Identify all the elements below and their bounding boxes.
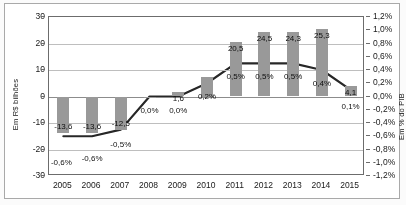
y-axis-left-tick: -30 bbox=[11, 170, 45, 180]
y-axis-right-tick: -1,0% bbox=[373, 157, 406, 167]
chart-image: 3020100-10-20-30 Em R$ bilhões 1,2%1,0%0… bbox=[0, 0, 406, 205]
y-axis-right-tickmark bbox=[366, 122, 370, 123]
y-axis-left-tick: 30 bbox=[11, 11, 45, 21]
y-axis-right-tickmark bbox=[366, 175, 370, 176]
bar-value-label-2015: 4,1 bbox=[334, 88, 368, 97]
y-axis-right-tickmark bbox=[366, 16, 370, 17]
y-axis-right-tickmark bbox=[366, 135, 370, 136]
y-axis-left-tickmark bbox=[41, 69, 45, 70]
y-axis-left-tickmark bbox=[41, 149, 45, 150]
chart-frame: 3020100-10-20-30 Em R$ bilhões 1,2%1,0%0… bbox=[4, 3, 400, 199]
x-axis: 2005200620072008200920102011201220132014… bbox=[48, 180, 364, 194]
bar-value-label-2014: 25,3 bbox=[305, 31, 339, 40]
y-axis-right-tick: -1,2% bbox=[373, 170, 406, 180]
y-axis-left-tickmark bbox=[41, 122, 45, 123]
line-value-label-2006: -0,6% bbox=[74, 154, 110, 163]
y-axis-right-tickmark bbox=[366, 149, 370, 150]
y-axis-right-tickmark bbox=[366, 56, 370, 57]
bar-value-label-2007: -12,5 bbox=[104, 119, 138, 128]
y-axis-right-tick: 1,2% bbox=[373, 11, 406, 21]
y-axis-right-tickmark bbox=[366, 43, 370, 44]
line-value-label-2010: 0,2% bbox=[189, 92, 225, 101]
gridline bbox=[49, 150, 363, 151]
y-axis-left-tickmark bbox=[41, 43, 45, 44]
y-axis-right-tickmark bbox=[366, 69, 370, 70]
y-axis-right-tickmark bbox=[366, 29, 370, 30]
line-value-label-2009: 0,0% bbox=[160, 106, 196, 115]
plot-area: -13,6-13,6-12,51,620,524,524,325,34,1-0,… bbox=[48, 16, 364, 175]
y-axis-left-tickmark bbox=[41, 96, 45, 97]
y-axis-right-tickmark bbox=[366, 162, 370, 163]
y-axis-right-tick: 0,6% bbox=[373, 51, 406, 61]
line-value-label-2007: -0,5% bbox=[103, 140, 139, 149]
y-axis-left-tickmark bbox=[41, 175, 45, 176]
y-axis-right-tick: 0,4% bbox=[373, 64, 406, 74]
y-axis-left-title: Em R$ bilhões bbox=[11, 73, 20, 137]
y-axis-right-tickmark bbox=[366, 82, 370, 83]
bar-value-label-2011: 20,5 bbox=[219, 44, 253, 53]
line-value-label-2014: 0,4% bbox=[304, 79, 340, 88]
y-axis-right-tick: 1,0% bbox=[373, 24, 406, 34]
y-axis-left-tickmark bbox=[41, 16, 45, 17]
x-axis-tick-2015: 2015 bbox=[333, 180, 367, 190]
line-value-label-2015: 0,1% bbox=[333, 102, 369, 111]
y-axis-left-tick: -20 bbox=[11, 144, 45, 154]
bar-2008 bbox=[144, 97, 156, 98]
y-axis-left-tick: 20 bbox=[11, 38, 45, 48]
y-axis-right-tick: 0,8% bbox=[373, 38, 406, 48]
y-axis-right-title: Em % do PIB bbox=[397, 85, 406, 149]
